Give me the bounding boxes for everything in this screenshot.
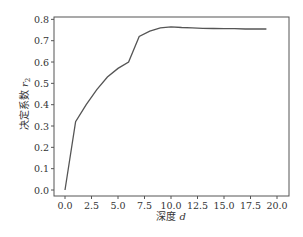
y-axis-ticks: 0.00.10.20.30.40.50.60.70.8	[34, 14, 54, 196]
x-tick-label: 15.0	[213, 200, 234, 211]
x-tick-label: 0.0	[57, 200, 72, 211]
y-tick-label: 0.4	[34, 99, 49, 110]
y-axis-label: 决定系数 r2	[18, 78, 32, 130]
y-tick-label: 0.6	[34, 57, 49, 68]
y-tick-label: 0.5	[34, 78, 49, 89]
x-tick-label: 17.5	[240, 200, 261, 211]
y-tick-label: 0.2	[34, 142, 49, 153]
x-tick-label: 12.5	[187, 200, 208, 211]
y-tick-label: 0.3	[34, 121, 49, 132]
y-tick-label: 0.8	[34, 14, 49, 25]
x-axis-ticks: 0.02.55.07.510.012.515.017.520.0	[57, 196, 287, 211]
y-tick-label: 0.7	[34, 35, 49, 46]
x-tick-label: 5.0	[110, 200, 125, 211]
line-chart: 0.00.10.20.30.40.50.60.70.8 0.02.55.07.5…	[0, 0, 303, 237]
x-axis-label: 深度 d	[156, 210, 186, 222]
plot-frame	[54, 17, 289, 196]
x-tick-label: 7.5	[137, 200, 152, 211]
data-line-r2	[65, 27, 266, 190]
y-tick-label: 0.0	[34, 185, 49, 196]
x-tick-label: 20.0	[266, 200, 287, 211]
axes-box	[54, 17, 289, 196]
y-tick-label: 0.1	[34, 163, 49, 174]
x-tick-label: 10.0	[160, 200, 181, 211]
x-tick-label: 2.5	[84, 200, 99, 211]
